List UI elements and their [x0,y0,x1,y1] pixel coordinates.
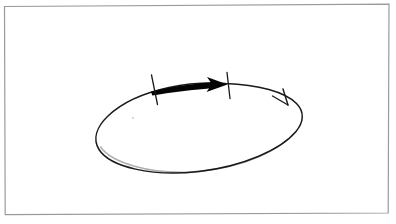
figure-root: A hand-drawn ellipse representing a circ… [0,0,396,224]
ink-speck [132,117,134,119]
page-background [0,0,396,224]
diagram-canvas [0,0,396,224]
